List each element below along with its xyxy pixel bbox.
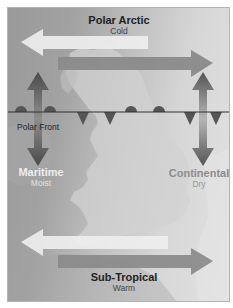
label-polar-arctic: Polar Arctic Cold (69, 15, 169, 36)
continental-vertical-arrow (192, 72, 214, 166)
maritime-vertical-arrow (27, 72, 49, 166)
subtropical-sub: Warm (79, 284, 169, 293)
label-subtropical: Sub-Tropical Warm (79, 272, 169, 293)
british-isles-map (8, 8, 230, 302)
continental-sub: Dry (164, 180, 230, 189)
polar-arctic-sub: Cold (69, 27, 169, 36)
continental-title: Continental (164, 168, 230, 179)
polar-front-label: Polar Front (17, 122, 59, 132)
label-maritime: Maritime Moist (11, 167, 71, 188)
subtropical-title: Sub-Tropical (79, 272, 169, 283)
diagram-frame: Polar Arctic Cold Polar Front Maritime M… (7, 7, 230, 302)
maritime-sub: Moist (11, 179, 71, 188)
polar-arctic-title: Polar Arctic (69, 15, 169, 26)
label-continental: Continental Dry (164, 168, 230, 189)
maritime-title: Maritime (11, 167, 71, 178)
